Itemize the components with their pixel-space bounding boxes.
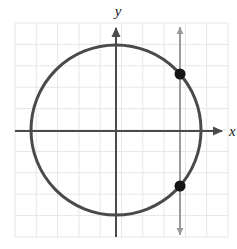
x-axis-label: x bbox=[228, 123, 236, 139]
upper-intersection-dot bbox=[175, 69, 186, 80]
y-axis-arrowhead bbox=[112, 27, 121, 37]
vertical-line-up-arrow bbox=[177, 27, 184, 34]
vertical-line-down-arrow bbox=[177, 228, 184, 235]
x-axis-arrowhead bbox=[213, 127, 223, 136]
y-axis-label: y bbox=[113, 3, 122, 19]
axes bbox=[15, 27, 223, 237]
lower-intersection-dot bbox=[175, 181, 186, 192]
coordinate-plane: x y bbox=[0, 0, 237, 249]
graph-figure: x y bbox=[0, 0, 237, 249]
